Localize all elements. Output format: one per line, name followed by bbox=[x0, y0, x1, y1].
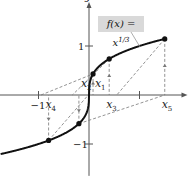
curve-point-x1 bbox=[90, 71, 95, 76]
y-tick-label: 1 bbox=[78, 41, 84, 52]
x-label-sub-3: 3 bbox=[112, 105, 116, 113]
arrow-icon bbox=[47, 118, 51, 121]
x-axis-arrow-icon bbox=[181, 93, 187, 98]
label-leader-line bbox=[131, 32, 140, 47]
arrow-icon bbox=[107, 74, 111, 77]
curve-point-x4 bbox=[46, 138, 51, 143]
curve-point-x3 bbox=[107, 56, 112, 61]
cube-root-diagram: xy−11−1x1x2x3x4x5 bbox=[0, 0, 190, 177]
dashed-diagonal bbox=[79, 95, 165, 124]
arrow-icon bbox=[77, 109, 81, 112]
x-label-sub-2: 2 bbox=[87, 84, 91, 92]
x-tick-label: −1 bbox=[31, 100, 46, 111]
y-axis-label: y bbox=[84, 0, 92, 3]
x-label-sub-4: 4 bbox=[52, 105, 57, 113]
arrow-icon bbox=[163, 64, 167, 67]
curve-point-x2 bbox=[76, 121, 81, 126]
x-label-sub-5: 5 bbox=[168, 105, 172, 113]
x-label-sub-1: 1 bbox=[101, 84, 105, 92]
curve-point-x5 bbox=[162, 36, 167, 41]
function-curve bbox=[1, 39, 165, 154]
dashed-diagonal bbox=[117, 39, 165, 95]
y-tick-label: −1 bbox=[73, 139, 88, 150]
